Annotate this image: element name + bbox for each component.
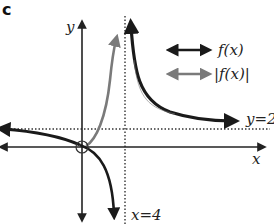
vertical-asymptote-label: x=4 — [131, 206, 162, 224]
legend-f-label: f(x) — [217, 41, 244, 59]
abs-f-curve-right-overlay — [134, 60, 175, 114]
legend-abs-f-label: |f(x)| — [214, 65, 250, 83]
y-axis-label: y — [65, 18, 75, 36]
abs-f-curve-left — [86, 40, 116, 146]
horizontal-asymptote-label: y=2 — [245, 110, 274, 128]
x-axis-label: x — [252, 150, 261, 168]
f-curve-left-lower — [80, 145, 114, 214]
function-graph: c x y f(x) |f(x)| y=2 x=4 — [0, 0, 274, 224]
legend: f(x) |f(x)| — [172, 41, 250, 83]
f-curve-left-upper — [3, 129, 80, 145]
part-label: c — [2, 0, 11, 19]
